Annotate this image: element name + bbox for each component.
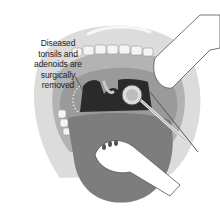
annotation-line-4: surgically [28, 70, 88, 81]
annotation-line-5: removed [28, 80, 88, 91]
annotation-label: Diseased tonsils and adenoids are surgic… [28, 38, 88, 91]
annotation-line-3: adenoids are [28, 59, 88, 70]
tonsillectomy-diagram: Diseased tonsils and adenoids are surgic… [0, 0, 220, 216]
mouth-illustration [0, 0, 220, 216]
annotation-line-1: Diseased [28, 38, 88, 49]
annotation-line-2: tonsils and [28, 49, 88, 60]
